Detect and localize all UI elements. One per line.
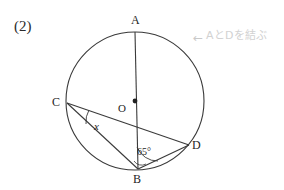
hint-annotation-text: AとDを結ぶ xyxy=(206,30,268,41)
point-label-a: A xyxy=(131,14,140,26)
angle-tick-at-b xyxy=(134,161,146,165)
angle-label-65-degrees: 65° xyxy=(137,147,151,157)
center-label-o: O xyxy=(118,103,126,114)
segment-cb xyxy=(67,103,138,169)
point-label-d: D xyxy=(192,139,201,151)
point-label-b: B xyxy=(133,173,141,185)
problem-figure-page: (2) A B C D O x 65° ← AとDを結ぶ xyxy=(0,0,284,190)
point-label-c: C xyxy=(52,96,60,108)
hint-arrow-icon: ← xyxy=(193,31,203,45)
center-point-dot xyxy=(133,99,138,104)
angle-label-x: x xyxy=(94,121,99,132)
segment-cd xyxy=(67,103,189,145)
